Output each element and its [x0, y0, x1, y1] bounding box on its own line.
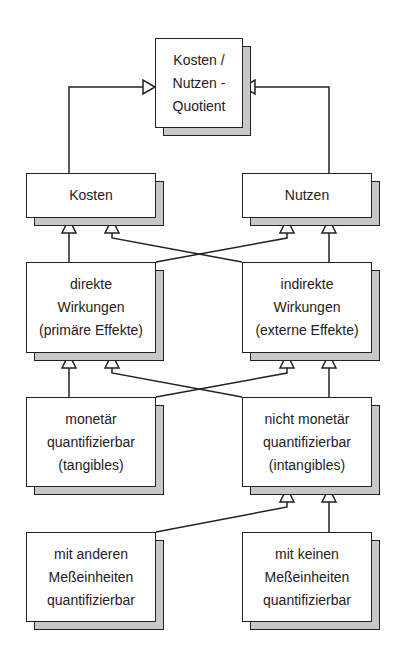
node-label-line: quantifizierbar	[47, 431, 135, 454]
node-label-line: quantifizierbar	[263, 431, 351, 454]
node-direkte-wirkungen: direkte Wirkungen (primäre Effekte)	[26, 262, 156, 353]
node-monetaer-quantifizierbar: monetär quantifizierbar (tangibles)	[26, 397, 156, 487]
node-label-line: indirekte	[281, 273, 334, 296]
node-label-line: nicht monetär	[265, 408, 350, 431]
node-box: Nutzen	[242, 173, 372, 218]
node-kosten-nutzen-quotient: Kosten / Nutzen - Quotient	[155, 38, 243, 128]
node-label-line: quantifizierbar	[47, 589, 135, 612]
node-label-line: monetär	[65, 408, 116, 431]
node-label-line: Quotient	[173, 95, 226, 118]
arrowhead-icon	[143, 80, 155, 94]
node-label-line: quantifizierbar	[263, 589, 351, 612]
node-label-line: (intangibles)	[269, 454, 345, 477]
node-kosten: Kosten	[26, 173, 156, 218]
node-box: indirekte Wirkungen (externe Effekte)	[242, 262, 372, 353]
node-label-line: (externe Effekte)	[255, 319, 358, 342]
node-box: nicht monetär quantifizierbar (intangibl…	[242, 397, 372, 487]
node-box: Kosten / Nutzen - Quotient	[155, 38, 243, 128]
node-label-line: (tangibles)	[58, 454, 123, 477]
node-box: Kosten	[26, 173, 156, 218]
node-label-line: Meßeinheiten	[49, 566, 134, 589]
node-box: mit keinen Meßeinheiten quantifizierbar	[242, 532, 372, 622]
node-keine-messeinheiten: mit keinen Meßeinheiten quantifizierbar	[242, 532, 372, 622]
node-nutzen: Nutzen	[242, 173, 372, 218]
node-label-line: mit anderen	[54, 543, 128, 566]
node-label-line: mit keinen	[275, 543, 339, 566]
node-box: direkte Wirkungen (primäre Effekte)	[26, 262, 156, 353]
node-box: mit anderen Meßeinheiten quantifizierbar	[26, 532, 156, 622]
node-label-line: Nutzen	[285, 184, 329, 207]
node-label-line: Wirkungen	[58, 296, 125, 319]
node-label-line: (primäre Effekte)	[39, 319, 143, 342]
node-label-line: Kosten /	[173, 49, 224, 72]
node-label-line: Kosten	[69, 184, 113, 207]
node-label-line: Wirkungen	[274, 296, 341, 319]
node-indirekte-wirkungen: indirekte Wirkungen (externe Effekte)	[242, 262, 372, 353]
node-andere-messeinheiten: mit anderen Meßeinheiten quantifizierbar	[26, 532, 156, 622]
node-label-line: direkte	[70, 273, 112, 296]
node-label-line: Nutzen -	[173, 72, 226, 95]
node-box: monetär quantifizierbar (tangibles)	[26, 397, 156, 487]
node-nicht-monetaer-quantifizierbar: nicht monetär quantifizierbar (intangibl…	[242, 397, 372, 487]
node-label-line: Meßeinheiten	[265, 566, 350, 589]
